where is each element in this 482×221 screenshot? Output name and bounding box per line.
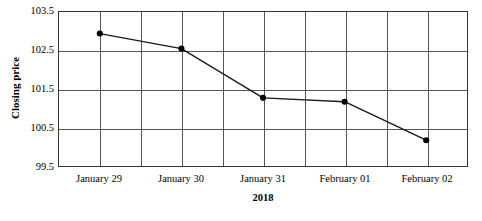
y-tick-label: 102.5	[20, 45, 54, 55]
x-axis-tick-labels: January 29 January 30 January 31 Februar…	[58, 172, 468, 188]
y-tick-label: 101.5	[20, 84, 54, 94]
y-tick-label: 99.5	[20, 162, 54, 172]
data-point	[178, 46, 184, 52]
data-line	[100, 34, 426, 141]
x-tick-label: January 31	[240, 172, 286, 185]
x-axis-title: 2018	[58, 192, 468, 203]
x-tick-label: February 01	[319, 172, 370, 185]
x-tick-label: January 30	[158, 172, 204, 185]
data-series-closing-price	[59, 12, 467, 166]
y-axis-tick-labels: 103.5 102.5 101.5 100.5 99.5	[18, 0, 54, 221]
y-tick-label: 100.5	[20, 123, 54, 133]
x-tick-label: February 02	[401, 172, 452, 185]
data-point	[423, 137, 429, 143]
closing-price-line-chart: Closing price 103.5 102.5 101.5 100.5 99…	[0, 0, 482, 221]
data-point	[260, 95, 266, 101]
y-tick-label: 103.5	[20, 6, 54, 16]
plot-area	[58, 11, 468, 167]
data-point	[342, 99, 348, 105]
x-tick-label: January 29	[76, 172, 122, 185]
data-markers	[97, 30, 430, 143]
data-point	[97, 30, 103, 36]
